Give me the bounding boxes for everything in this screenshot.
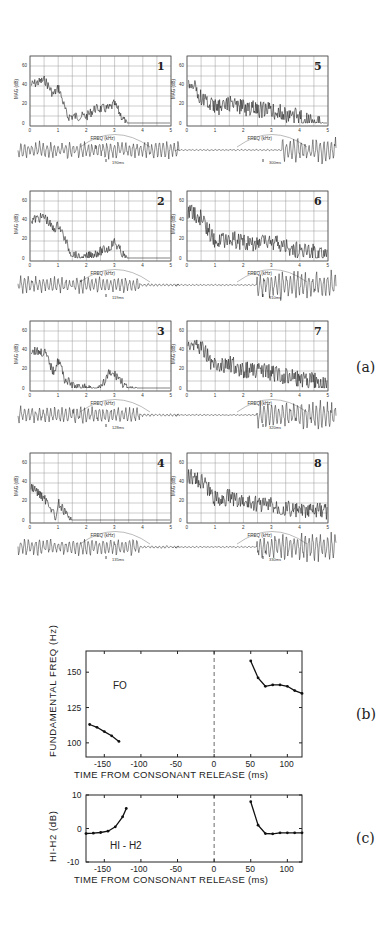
svg-text:-150: -150 <box>94 864 111 874</box>
svg-text:2: 2 <box>242 263 245 268</box>
svg-text:40: 40 <box>22 82 28 87</box>
spectrum-panel-8: 0123450204060MAG (dB)FREQ (kHz)8 <box>171 453 330 538</box>
svg-text:20: 20 <box>22 498 28 503</box>
spectrum-panel-3: 0123450204060MAG (dB)FREQ (kHz)3 <box>14 321 173 406</box>
svg-text:4: 4 <box>141 525 144 530</box>
svg-text:60: 60 <box>179 328 185 333</box>
svg-text:20: 20 <box>179 236 185 241</box>
svg-text:5: 5 <box>170 393 173 398</box>
svg-text:MAG (dB): MAG (dB) <box>171 213 176 234</box>
part-label-b: (b) <box>356 706 376 722</box>
svg-text:100: 100 <box>280 759 294 769</box>
svg-text:310ms: 310ms <box>269 295 281 300</box>
svg-text:1: 1 <box>214 525 217 530</box>
svg-text:300ms: 300ms <box>269 160 281 165</box>
svg-text:HI-H2 (dB): HI-H2 (dB) <box>47 811 58 862</box>
figure-canvas: 0123450204060MAG (dB)FREQ (kHz)1190ms012… <box>0 0 385 932</box>
svg-text:190ms: 190ms <box>112 160 124 165</box>
svg-text:0: 0 <box>22 121 25 126</box>
svg-text:3: 3 <box>270 128 273 133</box>
svg-text:100: 100 <box>280 864 294 874</box>
svg-text:0: 0 <box>22 518 25 523</box>
svg-text:20: 20 <box>179 498 185 503</box>
svg-text:3: 3 <box>157 325 165 338</box>
svg-text:100: 100 <box>67 738 81 748</box>
svg-text:20: 20 <box>22 236 28 241</box>
svg-text:5: 5 <box>327 263 330 268</box>
svg-text:4: 4 <box>298 393 301 398</box>
svg-text:5: 5 <box>327 393 330 398</box>
svg-text:FREQ (kHz): FREQ (kHz) <box>91 271 116 276</box>
svg-text:HI - H2: HI - H2 <box>110 840 142 851</box>
svg-text:1: 1 <box>57 525 60 530</box>
svg-text:5: 5 <box>314 60 322 73</box>
svg-text:0: 0 <box>179 386 182 391</box>
svg-text:0: 0 <box>179 518 182 523</box>
svg-text:40: 40 <box>22 347 28 352</box>
svg-text:60: 60 <box>22 328 28 333</box>
svg-text:2: 2 <box>85 393 88 398</box>
svg-text:40: 40 <box>22 217 28 222</box>
svg-text:0: 0 <box>29 128 32 133</box>
svg-text:1: 1 <box>157 60 165 73</box>
svg-text:1: 1 <box>57 128 60 133</box>
svg-text:1: 1 <box>214 128 217 133</box>
svg-text:FO: FO <box>113 680 127 691</box>
svg-text:FREQ (kHz): FREQ (kHz) <box>248 533 273 538</box>
svg-text:4: 4 <box>298 128 301 133</box>
svg-text:0: 0 <box>29 263 32 268</box>
plot-h1-h2: -150-100-50050100-10010TIME FROM CONSONA… <box>47 790 303 885</box>
svg-text:60: 60 <box>179 460 185 465</box>
svg-text:60: 60 <box>22 63 28 68</box>
svg-text:0: 0 <box>186 128 189 133</box>
svg-text:135ms: 135ms <box>112 557 124 562</box>
svg-text:0: 0 <box>179 121 182 126</box>
svg-text:MAG (dB): MAG (dB) <box>14 475 19 496</box>
svg-text:0: 0 <box>212 864 217 874</box>
svg-text:7: 7 <box>314 325 322 338</box>
svg-text:MAG (dB): MAG (dB) <box>14 78 19 99</box>
spectrum-panel-5: 0123450204060MAG (dB)FREQ (kHz)5 <box>171 56 330 141</box>
svg-text:FREQ (kHz): FREQ (kHz) <box>91 533 116 538</box>
svg-text:TIME FROM CONSONANT RELEASE (m: TIME FROM CONSONANT RELEASE (ms) <box>74 769 268 780</box>
svg-text:5: 5 <box>327 525 330 530</box>
svg-text:-100: -100 <box>131 864 148 874</box>
spectrum-panel-6: 0123450204060MAG (dB)FREQ (kHz)6 <box>171 191 330 276</box>
svg-text:-10: -10 <box>67 857 80 867</box>
svg-text:3: 3 <box>113 525 116 530</box>
spectrum-panel-4: 0123450204060MAG (dB)FREQ (kHz)4 <box>14 453 173 538</box>
svg-text:-100: -100 <box>131 759 148 769</box>
svg-text:1: 1 <box>214 393 217 398</box>
svg-text:1: 1 <box>57 263 60 268</box>
svg-text:40: 40 <box>22 479 28 484</box>
svg-text:MAG (dB): MAG (dB) <box>171 343 176 364</box>
svg-text:3: 3 <box>270 525 273 530</box>
svg-text:FREQ (kHz): FREQ (kHz) <box>248 136 273 141</box>
spectrum-panel-1: 0123450204060MAG (dB)FREQ (kHz)1 <box>14 56 173 141</box>
svg-text:6: 6 <box>314 195 322 208</box>
svg-text:60: 60 <box>22 460 28 465</box>
svg-text:3: 3 <box>270 393 273 398</box>
svg-text:0: 0 <box>186 263 189 268</box>
svg-text:5: 5 <box>170 263 173 268</box>
svg-text:3: 3 <box>113 263 116 268</box>
svg-text:FREQ (kHz): FREQ (kHz) <box>91 136 116 141</box>
svg-text:150: 150 <box>67 667 81 677</box>
svg-text:330ms: 330ms <box>269 557 281 562</box>
svg-text:4: 4 <box>157 457 165 470</box>
svg-text:MAG (dB): MAG (dB) <box>171 475 176 496</box>
svg-text:50: 50 <box>246 759 256 769</box>
svg-text:1: 1 <box>57 393 60 398</box>
svg-text:4: 4 <box>141 128 144 133</box>
svg-text:4: 4 <box>141 263 144 268</box>
svg-text:40: 40 <box>179 479 185 484</box>
svg-text:MAG (dB): MAG (dB) <box>14 343 19 364</box>
svg-text:125: 125 <box>67 703 81 713</box>
svg-text:-150: -150 <box>94 759 111 769</box>
svg-text:20: 20 <box>22 101 28 106</box>
svg-text:0: 0 <box>186 525 189 530</box>
svg-text:10: 10 <box>72 790 82 800</box>
svg-text:2: 2 <box>242 393 245 398</box>
svg-text:5: 5 <box>327 128 330 133</box>
svg-text:4: 4 <box>298 525 301 530</box>
